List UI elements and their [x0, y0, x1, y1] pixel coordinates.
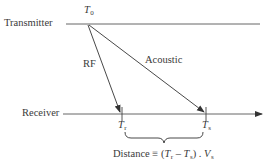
ts-main: T [202, 119, 208, 130]
formula-prefix: Distance ≡ ( [113, 148, 164, 159]
formula-minus: – [173, 148, 184, 159]
receiver-label: Receiver [22, 107, 59, 118]
acoustic-signal-arrow [89, 25, 204, 112]
acoustic-label: Acoustic [145, 54, 182, 65]
ts-label: Ts [202, 119, 211, 130]
transmitter-label: Transmitter [4, 17, 53, 28]
formula-t2-sub: s [190, 153, 193, 161]
t0-sub: 0 [90, 9, 94, 17]
formula-t1-sub: r [171, 153, 173, 161]
ts-sub: s [208, 124, 211, 132]
formula-t2: T [184, 148, 190, 159]
t0-main: T [84, 4, 90, 15]
tr-sub: r [124, 124, 126, 132]
tr-main: T [118, 119, 124, 130]
distance-formula: Distance ≡ (Tr – Ts) . Vs [113, 148, 214, 159]
formula-v-sub: s [211, 153, 214, 161]
formula-close: ) . [193, 148, 204, 159]
formula-t1: T [164, 148, 170, 159]
distance-brace [125, 132, 203, 143]
formula-v: V [204, 148, 210, 159]
t0-label: T0 [84, 4, 94, 15]
tr-label: Tr [118, 119, 127, 130]
rf-label: RF [83, 58, 96, 69]
